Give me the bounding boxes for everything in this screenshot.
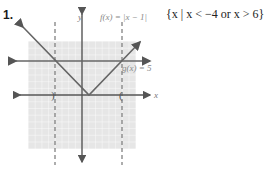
- f-label: f(x) = |x − 1|: [100, 12, 147, 22]
- g-label: g(x) = 5: [122, 63, 152, 73]
- paren-right: (: [119, 89, 123, 102]
- graph: ) ( y x f(x) = |x − 1| g(x) = 5: [0, 0, 264, 169]
- x-axis-label: x: [153, 90, 158, 100]
- y-axis-label: y: [77, 12, 82, 22]
- paren-left: ): [51, 89, 55, 102]
